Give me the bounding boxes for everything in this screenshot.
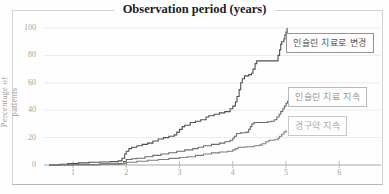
km-curve-figure: Observation period (years) Percentage of… [0,0,389,194]
x-tick-label-5: 5 [276,169,296,177]
x-tick-label-4: 4 [223,169,243,177]
curve-label-continued-oral-drug: 경구약 지속 [288,116,347,136]
y-tick-label-100: 100 [14,24,36,32]
curve-label-continued-insulin: 인슐린 치료 지속 [288,87,367,107]
curve-series-0 [49,28,287,165]
y-tick-label-0: 0 [14,161,36,169]
y-tick-label-60: 60 [14,79,36,87]
y-tick-label-20: 20 [14,134,36,142]
x-tick-label-3: 3 [170,169,190,177]
curve-series-2 [49,130,286,165]
x-tick-label-2: 2 [116,169,136,177]
x-tick-label-1: 1 [63,169,83,177]
curve-label-switched-to-insulin: 인슐린 치료로 변경 [286,33,374,53]
x-tick-label-6: 6 [329,169,349,177]
y-tick-label-40: 40 [14,106,36,114]
y-tick-label-80: 80 [14,51,36,59]
